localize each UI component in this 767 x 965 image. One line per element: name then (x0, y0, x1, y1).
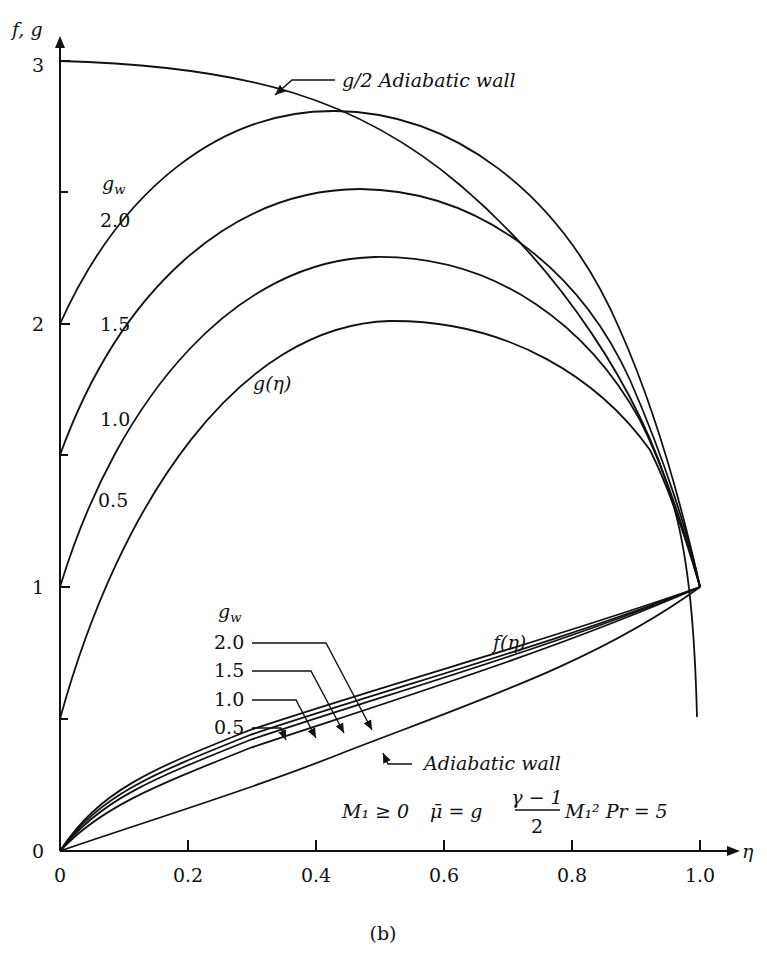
figure-caption: (b) (370, 922, 397, 944)
x-tick-label: 0.8 (557, 864, 587, 886)
label-f-adiabatic: Adiabatic wall (422, 752, 561, 774)
curve-g-gw-2.0 (60, 111, 700, 587)
label-g-curve-0.5: 0.5 (98, 489, 128, 511)
svg-text:μ̄ = g: μ̄ = g (430, 800, 483, 822)
x-axis-label: η (742, 840, 754, 862)
label-gw-top: gw (102, 172, 125, 197)
label-g-adiabatic: g/2 Adiabatic wall (342, 69, 516, 91)
y-tick-label: 2 (32, 313, 44, 335)
axes (55, 36, 740, 856)
y-tick-label: 0 (32, 840, 44, 862)
curve-g-gw-1.0 (60, 257, 700, 587)
x-tick-label: 0 (54, 864, 66, 886)
y-tick-label: 3 (32, 54, 44, 76)
label-f-curve-1.0: 1.0 (214, 688, 244, 710)
label-g-curve-1.0: 1.0 (100, 408, 130, 430)
x-tick-label: 1.0 (685, 864, 715, 886)
x-tick-label: 0.6 (429, 864, 459, 886)
label-f-curve-1.5: 1.5 (214, 659, 244, 681)
x-tick-label: 0.4 (301, 864, 331, 886)
y-axis-label: f, g (10, 18, 43, 40)
label-g-curve-2.0: 2.0 (100, 209, 130, 231)
parameter-annotation: M₁ ≥ 0 μ̄ = g γ − 1 2 M₁² Pr = 5 (341, 786, 668, 837)
svg-text:M₁ ≥ 0: M₁ ≥ 0 (341, 800, 409, 822)
label-g-curve-1.5: 1.5 (100, 313, 130, 335)
svg-text:γ − 1: γ − 1 (511, 786, 562, 808)
y-tick-label: 1 (32, 576, 44, 598)
label-g-eta: g(η) (253, 372, 291, 394)
label-f-curve-0.5: 0.5 (214, 716, 244, 738)
chart-figure: 0 0.2 0.4 0.6 0.8 1.0 0 1 2 3 f, g η g/2… (0, 0, 767, 965)
label-f-curve-2.0: 2.0 (214, 631, 244, 653)
label-f-eta: f(η) (491, 631, 526, 653)
x-tick-label: 0.2 (173, 864, 203, 886)
label-gw-bottom: gw (218, 600, 241, 625)
curve-g-gw-0.5 (60, 321, 700, 719)
curves (60, 61, 700, 851)
svg-text:M₁² Pr = 5: M₁² Pr = 5 (564, 800, 668, 822)
svg-text:2: 2 (531, 815, 543, 837)
